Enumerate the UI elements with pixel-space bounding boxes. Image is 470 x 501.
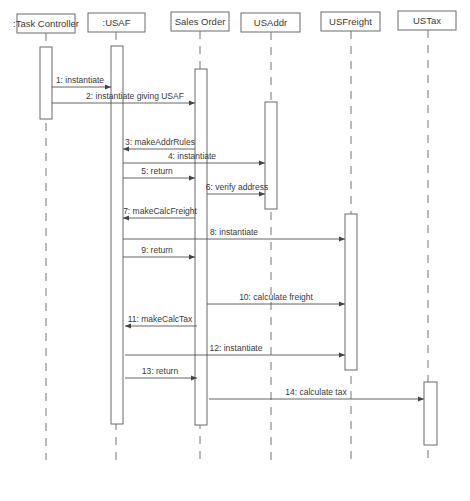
activation-bar-usaddr	[265, 102, 277, 209]
message-label: 5: return	[141, 166, 173, 176]
activation-bar-usfreight	[345, 214, 357, 370]
activation-bar-tc	[40, 47, 52, 119]
message-label: 12: instantiate	[210, 343, 263, 353]
message-14: 14: calculate tax	[209, 387, 424, 399]
activation-bar-ustax	[424, 382, 437, 445]
message-label: 14: calculate tax	[285, 387, 347, 397]
message-3: 3: makeAddrRules	[123, 137, 195, 149]
participant-tc: :Task Controller	[13, 14, 79, 33]
message-13: 13: return	[125, 366, 197, 378]
activation-bar-so	[195, 69, 207, 425]
message-label: 11: makeCalcTax	[128, 314, 193, 324]
message-label: 7: makeCalcFreight	[123, 206, 197, 216]
message-8: 8: instantiate	[123, 227, 345, 239]
messages: 1: instantiate2: instantiate giving USAF…	[52, 75, 424, 399]
message-label: 6: verify address	[206, 182, 268, 192]
message-11: 11: makeCalcTax	[125, 314, 197, 326]
message-12: 12: instantiate	[125, 343, 345, 355]
message-label: 9: return	[141, 245, 173, 255]
participant-label: USAddr	[254, 17, 287, 28]
message-10: 10: calculate freight	[207, 292, 345, 304]
participant-usfreight: USFreight	[321, 12, 380, 31]
message-9: 9: return	[123, 245, 195, 257]
message-1: 1: instantiate	[52, 75, 111, 87]
participant-so: Sales Order	[171, 12, 229, 31]
participant-usaf: :USAF	[88, 13, 145, 32]
participant-label: USFreight	[329, 16, 372, 27]
message-label: 8: instantiate	[210, 227, 258, 237]
participant-label: USTax	[413, 15, 441, 26]
participant-headers: :Task Controller:USAFSales OrderUSAddrUS…	[13, 11, 456, 33]
message-5: 5: return	[123, 166, 195, 178]
message-label: 3: makeAddrRules	[125, 137, 195, 147]
participant-label: :USAF	[103, 17, 131, 28]
message-6: 6: verify address	[206, 182, 268, 194]
message-4: 4: instantiate	[123, 151, 265, 163]
sequence-diagram: :Task Controller:USAFSales OrderUSAddrUS…	[0, 0, 470, 501]
message-label: 2: instantiate giving USAF	[86, 91, 184, 101]
message-label: 4: instantiate	[168, 151, 216, 161]
participant-usaddr: USAddr	[241, 13, 300, 32]
participant-label: Sales Order	[175, 16, 226, 27]
message-label: 10: calculate freight	[239, 292, 313, 302]
participant-label: :Task Controller	[13, 18, 79, 29]
message-label: 13: return	[142, 366, 179, 376]
message-7: 7: makeCalcFreight	[123, 206, 197, 218]
activation-bars	[40, 46, 437, 445]
participant-ustax: USTax	[398, 11, 456, 30]
message-label: 1: instantiate	[56, 75, 104, 85]
